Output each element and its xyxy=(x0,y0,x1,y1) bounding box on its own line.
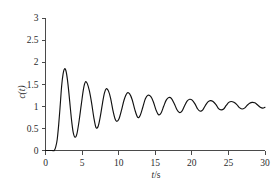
y-tick-label: 1.5 xyxy=(27,80,39,90)
chart-figure: 00.511.522.53 051015202530 c(t) t/s xyxy=(0,0,279,185)
x-tick-label: 25 xyxy=(224,158,234,168)
x-axis-tick-labels: 051015202530 xyxy=(43,158,270,168)
y-tick-label: 1 xyxy=(34,102,39,112)
y-tick-label: 2.5 xyxy=(27,35,39,45)
y-tick-label: 0.5 xyxy=(27,124,39,134)
x-tick-label: 5 xyxy=(80,158,85,168)
x-tick-label: 15 xyxy=(151,158,161,168)
y-tick-label: 3 xyxy=(34,13,39,23)
x-tick-label: 0 xyxy=(43,158,48,168)
x-axis-ticks xyxy=(46,151,266,155)
y-tick-label: 2 xyxy=(34,57,39,67)
y-axis-ticks xyxy=(42,18,46,151)
y-tick-label: 0 xyxy=(34,146,39,156)
damped-oscillation-plot: 00.511.522.53 051015202530 c(t) t/s xyxy=(0,0,279,185)
y-axis-title: c(t) xyxy=(17,85,28,98)
x-tick-label: 20 xyxy=(187,158,197,168)
x-tick-label: 10 xyxy=(114,158,124,168)
axes-group xyxy=(46,18,266,151)
x-axis-title: t/s xyxy=(152,170,161,180)
x-tick-label: 30 xyxy=(260,158,270,168)
data-curve-ct xyxy=(46,69,266,151)
y-axis-tick-labels: 00.511.522.53 xyxy=(27,13,39,156)
